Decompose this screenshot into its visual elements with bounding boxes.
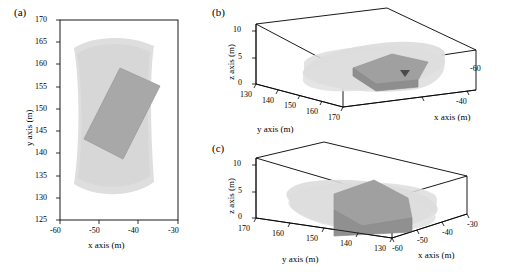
panel-b-ytick-1: 140 — [262, 96, 274, 105]
panel-c-xtick-3: -30 — [467, 220, 478, 229]
subplot-c: (c) — [212, 140, 508, 280]
panel-a-xtick-2: -40 — [128, 226, 139, 235]
panel-c-ytick-2: 150 — [306, 234, 318, 243]
panel-a-ytick-5: 150 — [35, 104, 47, 113]
panel-a-y-ticks — [56, 20, 60, 220]
panel-c-ytick-1: 160 — [272, 229, 284, 238]
panel-a-ytick-3: 140 — [35, 148, 47, 157]
panel-c-ztick-0: 0 — [238, 212, 242, 221]
panel-c-ytick-0: 170 — [238, 224, 250, 233]
panel-c-ztick-2: 10 — [233, 159, 241, 168]
panel-c-ylabel: y axis (m) — [282, 254, 319, 264]
panel-a-ytick-9: 170 — [35, 15, 47, 24]
panel-a-xlabel: x axis (m) — [88, 240, 125, 250]
panel-c-ztick-1: 5 — [238, 186, 242, 195]
panel-c-xtick-1: -50 — [417, 236, 428, 245]
panel-c-ytick-3: 140 — [340, 239, 352, 248]
panel-a-ytick-2: 135 — [35, 171, 47, 180]
panel-b-ztick-1: 5 — [238, 52, 242, 61]
panel-a-ytick-1: 130 — [35, 193, 47, 202]
panel-b-ztick-2: 10 — [233, 25, 241, 34]
panel-a-ytick-6: 155 — [35, 82, 47, 91]
panel-c-z-ticks — [252, 165, 256, 218]
panel-a-ytick-0: 125 — [35, 215, 47, 224]
panel-a-x-ticks — [60, 220, 178, 224]
panel-a-ylabel: y axis (m) — [24, 110, 34, 147]
panel-b-zlabel: z axis (m) — [226, 44, 236, 80]
subplot-b: (b) — [212, 2, 508, 142]
panel-a-ytick-4: 145 — [35, 126, 47, 135]
panel-a-ytick-7: 160 — [35, 59, 47, 68]
panel-b-xlabel: x axis (m) — [434, 112, 471, 122]
panel-b-z-ticks — [252, 31, 256, 84]
panel-b-ytick-4: 170 — [328, 113, 340, 122]
panel-b-xtick-0: -60 — [470, 64, 481, 73]
panel-a-ytick-8: 165 — [35, 37, 47, 46]
panel-c-ytick-4: 130 — [374, 244, 386, 253]
subplot-a: (a) — [8, 6, 213, 274]
panel-c-xlabel: x axis (m) — [418, 250, 455, 260]
panel-b-ztick-0: 0 — [238, 78, 242, 87]
panel-b-ylabel: y axis (m) — [257, 124, 294, 134]
panel-b-ytick-0: 130 — [240, 90, 252, 99]
panel-a-xtick-3: -30 — [168, 226, 179, 235]
panel-c-xtick-2: -40 — [442, 228, 453, 237]
panel-b-xtick-1: -40 — [456, 97, 467, 106]
panel-a-xtick-0: -60 — [50, 226, 61, 235]
panel-a-xtick-1: -50 — [89, 226, 100, 235]
panel-b-ytick-2: 150 — [284, 101, 296, 110]
panel-b-ytick-3: 160 — [306, 107, 318, 116]
panel-c-xtick-0: -60 — [392, 244, 403, 253]
panel-c-zlabel: z axis (m) — [226, 178, 236, 214]
